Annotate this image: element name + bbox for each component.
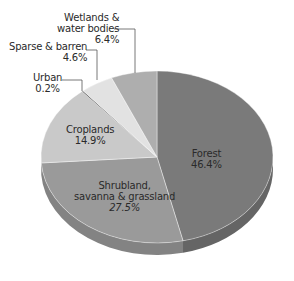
label-text: Sparse & barren [9,41,87,52]
leader-line-urban [62,80,82,91]
label-value: 27.5% [74,202,175,213]
label-text: Forest [191,148,222,159]
label-shrubland: Shrubland, savanna & grassland 27.5% [74,180,175,213]
label-text: Urban [33,72,62,83]
label-text: water bodies [57,23,119,34]
label-text: Wetlands & [57,12,119,23]
pie-top [41,71,273,243]
label-sparse: Sparse & barren 4.6% [9,41,87,63]
label-text: Croplands [66,124,114,135]
label-croplands: Croplands 14.9% [66,124,114,146]
label-text: savanna & grassland [74,191,175,202]
label-value: 0.2% [33,83,62,94]
label-forest: Forest 46.4% [191,148,222,170]
leader-line-sparse [86,50,97,80]
label-value: 14.9% [66,135,114,146]
label-urban: Urban 0.2% [33,72,62,94]
label-text: Shrubland, [74,180,175,191]
label-value: 46.4% [191,159,222,170]
label-value: 4.6% [9,52,87,63]
